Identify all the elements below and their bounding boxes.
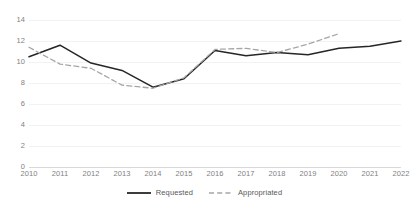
y-axis-tick-label: 2 (3, 142, 25, 150)
plot-area (29, 20, 401, 167)
series-group (29, 34, 401, 89)
x-axis-tick-label: 2022 (381, 170, 414, 178)
series-line-appropriated (29, 34, 339, 89)
plot-svg (29, 20, 401, 167)
legend-item-appropriated[interactable]: Appropriated (209, 189, 282, 197)
chart-legend: RequestedAppropriated (0, 189, 409, 197)
y-axis-tick-label: 12 (3, 37, 25, 45)
y-axis-tick-label: 4 (3, 121, 25, 129)
series-line-requested (29, 41, 401, 87)
legend-swatch-dashed-line-icon (209, 189, 233, 197)
y-axis-tick-label: 6 (3, 100, 25, 108)
legend-label: Appropriated (238, 189, 282, 197)
legend-item-requested[interactable]: Requested (127, 189, 193, 197)
y-axis-tick-label: 8 (3, 79, 25, 87)
x-axis: 2010201120122013201420152016201720182019… (29, 170, 401, 184)
legend-swatch-solid-line-icon (127, 189, 151, 197)
legend-label: Requested (156, 189, 193, 197)
y-axis-tick-label: 10 (3, 58, 25, 66)
gridlines (29, 20, 401, 146)
y-axis: 02468101214 (0, 0, 25, 210)
y-axis-tick-label: 14 (3, 16, 25, 24)
